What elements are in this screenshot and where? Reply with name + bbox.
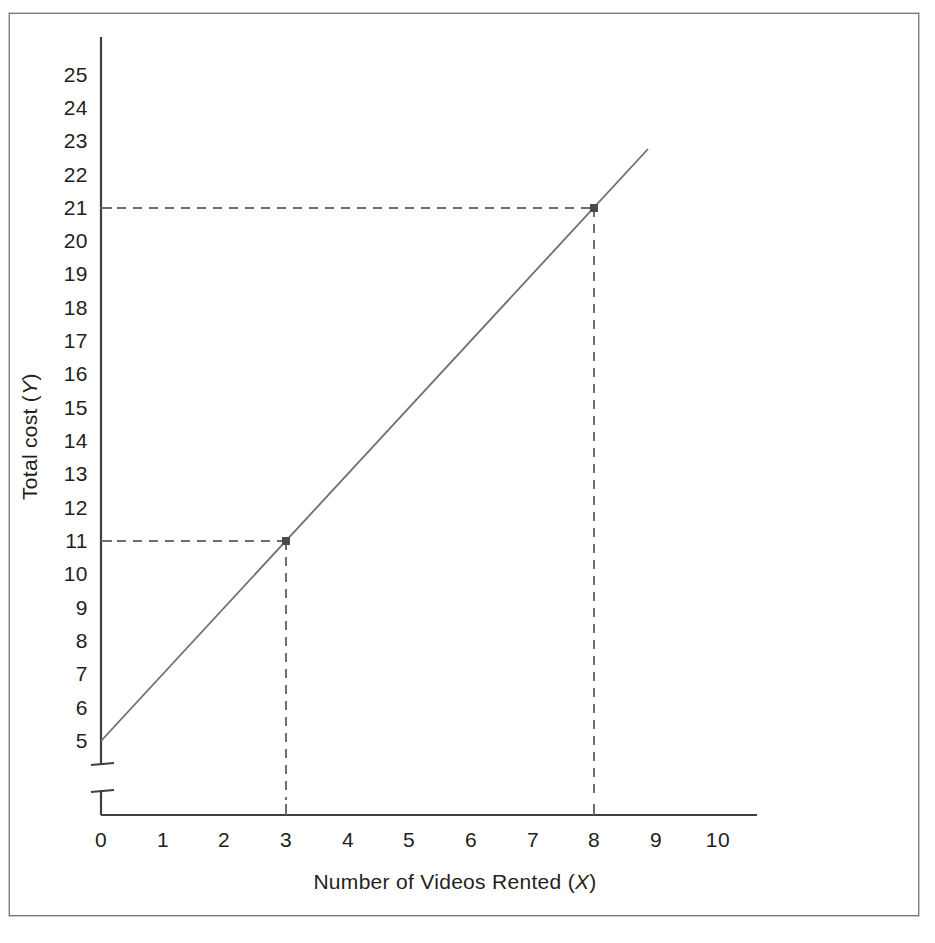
x-tick-label-6: 6 <box>465 828 477 852</box>
y-tick-label-18: 18 <box>54 296 88 320</box>
y-tick-label-25: 25 <box>54 63 88 87</box>
y-axis-title-suffix: ) <box>18 373 41 380</box>
y-tick-label-23: 23 <box>54 129 88 153</box>
x-tick-label-9: 9 <box>650 828 662 852</box>
y-tick-label-24: 24 <box>54 96 88 120</box>
y-tick-label-8: 8 <box>54 629 88 653</box>
x-tick-label-0: 0 <box>95 828 107 852</box>
x-tick-label-5: 5 <box>403 828 415 852</box>
x-tick-label-10: 10 <box>706 828 730 852</box>
y-tick-label-9: 9 <box>54 596 88 620</box>
y-axis-title: Total cost (Y) <box>18 373 42 500</box>
y-tick-label-19: 19 <box>54 262 88 286</box>
data-point-3-11 <box>282 537 290 545</box>
chart-screenshot: 25 24 23 22 21 20 19 18 17 16 15 14 13 1… <box>0 0 935 943</box>
y-tick-label-15: 15 <box>54 396 88 420</box>
y-axis-variable: Y <box>18 381 41 395</box>
x-axis-variable: X <box>575 870 589 893</box>
x-tick-label-1: 1 <box>157 828 169 852</box>
y-tick-label-17: 17 <box>54 329 88 353</box>
cost-function-line <box>101 149 648 741</box>
x-tick-label-2: 2 <box>218 828 230 852</box>
x-axis-break-lower-mark <box>91 790 114 792</box>
x-axis-title-text: Number of Videos Rented ( <box>313 870 575 893</box>
y-tick-label-16: 16 <box>54 362 88 386</box>
y-tick-label-21: 21 <box>54 196 88 220</box>
y-tick-label-10: 10 <box>54 562 88 586</box>
x-axis-title-suffix: ) <box>589 870 596 893</box>
y-tick-label-6: 6 <box>54 696 88 720</box>
x-tick-label-8: 8 <box>588 828 600 852</box>
x-axis-title: Number of Videos Rented (X) <box>255 870 655 894</box>
y-tick-label-14: 14 <box>54 429 88 453</box>
y-tick-label-13: 13 <box>54 462 88 486</box>
data-point-8-21 <box>590 204 598 212</box>
y-axis-break-upper-mark <box>91 763 114 765</box>
chart-plot-area <box>0 0 935 943</box>
y-axis-title-text: Total cost ( <box>18 395 41 500</box>
y-tick-label-20: 20 <box>54 229 88 253</box>
x-tick-label-7: 7 <box>527 828 539 852</box>
x-tick-label-4: 4 <box>342 828 354 852</box>
x-tick-label-3: 3 <box>280 828 292 852</box>
y-tick-label-22: 22 <box>54 163 88 187</box>
y-tick-label-11: 11 <box>54 529 88 553</box>
y-tick-label-5: 5 <box>54 729 88 753</box>
y-tick-label-12: 12 <box>54 496 88 520</box>
y-tick-label-7: 7 <box>54 662 88 686</box>
